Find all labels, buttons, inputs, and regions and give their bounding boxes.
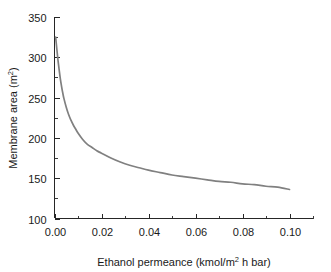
y-axis-title: Membrane area (m2) bbox=[6, 67, 19, 168]
x-tick-label: 0.08 bbox=[233, 226, 254, 238]
x-axis-title: Ethanol permeance (kmol/m2 h bar) bbox=[97, 255, 271, 268]
y-tick-label: 150 bbox=[28, 173, 46, 185]
y-tick-label: 300 bbox=[28, 52, 46, 64]
x-tick-label: 0.10 bbox=[280, 226, 301, 238]
y-tick-label: 100 bbox=[28, 214, 46, 226]
y-tick-label: 350 bbox=[28, 12, 46, 24]
y-tick-label: 250 bbox=[28, 93, 46, 105]
x-tick-label: 0.00 bbox=[45, 226, 66, 238]
y-tick-label: 200 bbox=[28, 133, 46, 145]
x-tick-label: 0.06 bbox=[186, 226, 207, 238]
x-tick-label: 0.04 bbox=[139, 226, 160, 238]
x-tick-label: 0.02 bbox=[92, 226, 113, 238]
chart-figure: 100150200250300350 0.000.020.040.060.080… bbox=[0, 0, 331, 272]
line-chart: 100150200250300350 0.000.020.040.060.080… bbox=[0, 0, 331, 272]
